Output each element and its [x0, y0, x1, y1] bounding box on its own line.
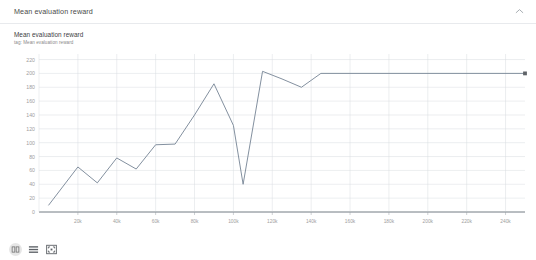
y-axis-tick-label: 0 — [32, 209, 35, 215]
y-axis-tick-label: 200 — [26, 70, 35, 76]
x-axis-tick-label: 220k — [461, 219, 472, 224]
chart-subtitle: tag: Mean evaluation reward — [14, 40, 73, 45]
y-axis-tick-label: 140 — [26, 112, 35, 118]
chart-title: Mean evaluation reward — [14, 31, 83, 38]
y-axis-tick-label: 120 — [26, 126, 35, 132]
x-axis-tick-label: 180k — [384, 219, 395, 224]
fullscreen-icon[interactable] — [45, 243, 58, 256]
chevron-up-icon[interactable] — [512, 5, 526, 19]
y-axis-tick-label: 60 — [29, 167, 35, 173]
x-axis-tick-label: 80k — [191, 219, 199, 224]
x-axis-tick-label: 100k — [228, 219, 239, 224]
data-table-icon[interactable] — [27, 243, 40, 256]
y-axis-tick-label: 100 — [26, 140, 35, 146]
card-header-title: Mean evaluation reward — [0, 7, 93, 16]
x-axis-tick-label: 240k — [500, 219, 511, 224]
y-axis-tick-label: 20 — [29, 195, 35, 201]
y-axis-tick-label: 40 — [29, 181, 35, 187]
y-axis-tick-label: 160 — [26, 98, 35, 104]
x-axis-tick-label: 120k — [267, 219, 278, 224]
x-axis-tick-label: 60k — [152, 219, 160, 224]
data-end-marker[interactable] — [523, 72, 527, 76]
chart-controls — [9, 243, 58, 256]
x-axis-tick-label: 140k — [306, 219, 317, 224]
y-axis-tick-label: 180 — [26, 84, 35, 90]
x-axis-tick-label: 40k — [113, 219, 121, 224]
x-axis-tick-label: 200k — [423, 219, 434, 224]
card-header: Mean evaluation reward — [0, 0, 536, 24]
y-axis-tick-label: 220 — [26, 57, 35, 63]
x-axis-tick-label: 20k — [74, 219, 82, 224]
line-chart-svg[interactable]: 02040608010012014016018020022020k40k60k8… — [0, 46, 536, 232]
x-axis-tick-label: 160k — [345, 219, 356, 224]
scalar-chart-card: Mean evaluation reward Mean evaluation r… — [0, 0, 536, 260]
plot-area[interactable]: 02040608010012014016018020022020k40k60k8… — [0, 46, 536, 232]
plot-background — [39, 54, 525, 212]
y-axis-tick-label: 80 — [29, 154, 35, 160]
fit-domain-icon[interactable] — [9, 243, 22, 256]
